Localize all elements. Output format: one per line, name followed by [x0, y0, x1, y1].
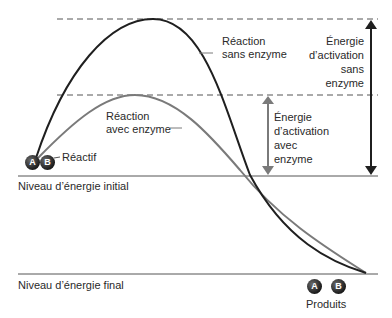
label-line: sans enzyme [222, 48, 287, 61]
molecule-a-product: A [307, 279, 322, 294]
label-line: Réaction [222, 35, 287, 48]
label-line: Réaction [106, 110, 171, 123]
arrow-head-up-icon [365, 20, 377, 29]
molecule-b-product: B [331, 279, 346, 294]
label-initial-level: Niveau d’énergie initial [18, 180, 129, 193]
label-line: avec [274, 138, 329, 152]
label-reaction-sans-enzyme: Réaction sans enzyme [222, 35, 287, 61]
label-line: d’activation [274, 124, 329, 138]
label-line: enzyme [300, 76, 364, 90]
label-line: Énergie [300, 34, 364, 48]
arrow-head-down-icon [262, 166, 274, 175]
label-line: d’activation [300, 48, 364, 62]
label-reactif: Réactif [62, 151, 96, 164]
label-line: avec enzyme [106, 123, 171, 136]
label-line: Énergie [274, 110, 329, 124]
label-activation-avec-enzyme: Énergie d’activation avec enzyme [274, 110, 329, 166]
label-line: sans [300, 62, 364, 76]
label-reaction-avec-enzyme: Réaction avec enzyme [106, 110, 171, 136]
molecule-a-reactant: A [25, 155, 40, 170]
label-produits: Produits [306, 298, 346, 311]
leader-reactif [54, 157, 60, 158]
arrow-head-up-icon [262, 96, 274, 104]
label-line: enzyme [274, 152, 329, 166]
molecule-b-reactant: B [40, 155, 55, 170]
arrow-head-down-icon [365, 166, 377, 175]
label-final-level: Niveau d’énergie final [18, 279, 124, 292]
label-activation-sans-enzyme: Énergie d’activation sans enzyme [300, 34, 364, 90]
